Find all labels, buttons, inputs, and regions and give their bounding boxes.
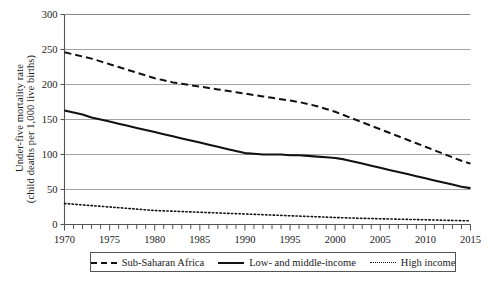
chart-container: Under-five mortality rate (child deaths … (0, 0, 488, 281)
legend-label-sub-saharan-africa: Sub-Saharan Africa (122, 257, 205, 268)
series-line-sub-saharan-africa (65, 52, 471, 163)
x-tick-label-1995: 1995 (280, 234, 301, 245)
y-tick-label-300: 300 (42, 9, 58, 20)
series-line-low-and-middle-income (65, 110, 471, 188)
plot-area: 0501001502002503001970197519801985199019… (0, 0, 488, 281)
x-tick-label-1970: 1970 (54, 234, 75, 245)
legend-item-low-and-middle-income: Low- and middle-income (211, 257, 363, 268)
y-tick-label-0: 0 (52, 219, 57, 230)
y-tick-label-150: 150 (42, 114, 58, 125)
x-tick-label-2000: 2000 (325, 234, 346, 245)
dashed-line-swatch-icon (91, 258, 117, 266)
x-tick-label-1980: 1980 (144, 234, 165, 245)
legend-label-low-and-middle-income: Low- and middle-income (249, 257, 356, 268)
y-tick-label-200: 200 (42, 79, 58, 90)
series-line-high-income (65, 204, 471, 221)
x-tick-label-1975: 1975 (99, 234, 120, 245)
chart-legend: Sub-Saharan Africa Low- and middle-incom… (90, 252, 456, 272)
x-tick-label-2005: 2005 (370, 234, 391, 245)
solid-line-swatch-icon (218, 258, 244, 266)
y-tick-label-100: 100 (42, 149, 58, 160)
dotted-line-swatch-icon (370, 258, 396, 266)
legend-item-sub-saharan-africa: Sub-Saharan Africa (84, 257, 212, 268)
legend-label-high-income: High income (401, 257, 456, 268)
x-tick-label-1990: 1990 (234, 234, 255, 245)
legend-item-high-income: High income (363, 257, 463, 268)
y-tick-label-50: 50 (47, 184, 58, 195)
x-tick-label-2015: 2015 (460, 234, 481, 245)
x-tick-label-1985: 1985 (189, 234, 210, 245)
y-tick-label-250: 250 (42, 44, 58, 55)
x-tick-label-2010: 2010 (415, 234, 436, 245)
